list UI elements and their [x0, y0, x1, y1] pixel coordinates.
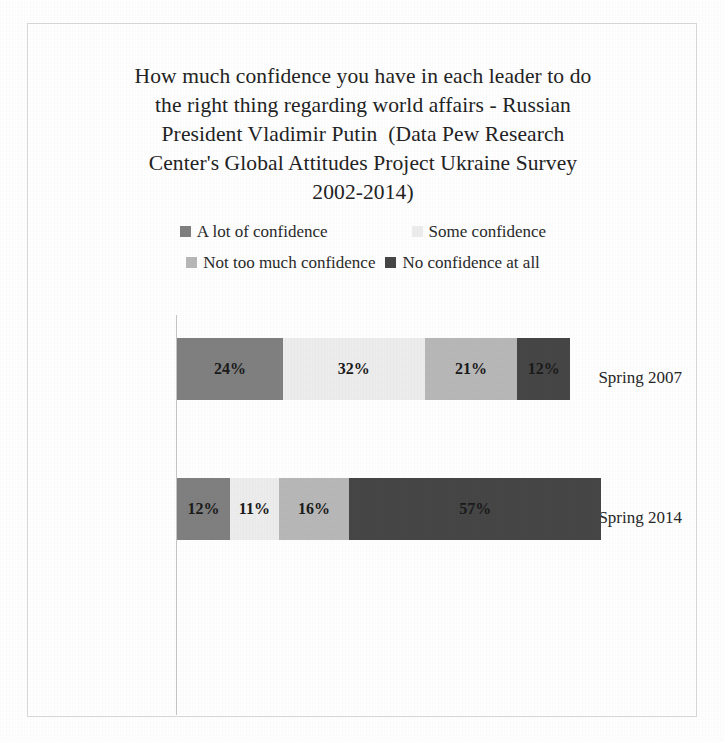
chart-title-line-3: President Vladimir Putin (Data Pew Resea… [76, 120, 650, 149]
chart-title-line-1: How much confidence you have in each lea… [76, 62, 650, 91]
legend-item-not-too-much-confidence[interactable]: Not too much confidence [186, 253, 375, 272]
legend-item-a-lot-of-confidence[interactable]: A lot of confidence [180, 222, 328, 241]
bar-row-spring-2007: 24%32%21%12% [177, 338, 570, 400]
bar-segment[interactable]: 32% [283, 338, 424, 400]
bar-row-spring-2014: 12%11%16%57% [177, 478, 601, 540]
bar-segment-value-label: 16% [298, 500, 330, 518]
bar-segment[interactable]: 16% [279, 478, 350, 540]
bar-segment[interactable]: 21% [425, 338, 518, 400]
legend-item-some-confidence[interactable]: Some confidence [412, 222, 547, 241]
square-swatch-icon [186, 257, 197, 268]
bar-segment-value-label: 12% [528, 360, 560, 378]
bar-segment-value-label: 57% [459, 500, 491, 518]
bar-segment[interactable]: 12% [177, 478, 230, 540]
bar-segment-value-label: 24% [214, 360, 246, 378]
bar-segment[interactable]: 24% [177, 338, 283, 400]
legend-item-no-confidence-at-all[interactable]: No confidence at all [385, 253, 539, 272]
legend-row-2: Not too much confidence No confidence at… [76, 247, 650, 278]
chart-frame: How much confidence you have in each lea… [27, 23, 697, 717]
legend-label-not-too-much-confidence: Not too much confidence [203, 253, 375, 272]
plot-area: 24%32%21%12% 12%11%16%57% [176, 315, 646, 715]
square-swatch-icon [412, 226, 423, 237]
bar-segment[interactable]: 11% [230, 478, 279, 540]
bar-segment-value-label: 12% [188, 500, 220, 518]
bar-segment-value-label: 11% [239, 500, 270, 518]
chart-title-line-5: 2002-2014) [76, 178, 650, 207]
chart-legend: A lot of confidence Some confidence Not … [76, 216, 650, 278]
legend-label-no-confidence-at-all: No confidence at all [402, 253, 539, 272]
bar-segment-value-label: 32% [338, 360, 370, 378]
bar-segment[interactable]: 57% [349, 478, 601, 540]
legend-label-some-confidence: Some confidence [429, 222, 547, 241]
chart-title-line-2: the right thing regarding world affairs … [76, 91, 650, 120]
legend-label-a-lot-of-confidence: A lot of confidence [197, 222, 328, 241]
square-swatch-icon [180, 226, 191, 237]
chart-title-line-4: Center's Global Attitudes Project Ukrain… [76, 149, 650, 178]
chart-title: How much confidence you have in each lea… [76, 62, 650, 207]
square-swatch-icon [385, 257, 396, 268]
legend-row-1: A lot of confidence Some confidence [76, 216, 650, 247]
bar-segment[interactable]: 12% [517, 338, 570, 400]
bar-segment-value-label: 21% [455, 360, 487, 378]
